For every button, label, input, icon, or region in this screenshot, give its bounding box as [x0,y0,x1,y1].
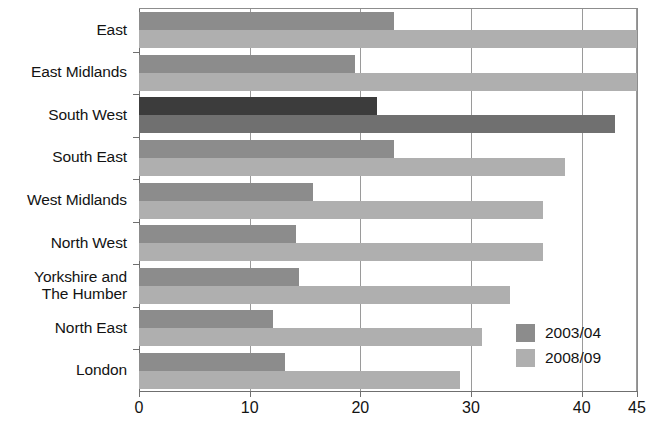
legend-label: 2008/09 [545,349,601,367]
x-axis: 01020304045 [139,391,637,429]
x-tick-label-40: 40 [573,399,591,417]
bar-2003-04 [139,12,394,30]
bar-2003-04 [139,183,313,201]
bar-2003-04 [139,353,285,371]
bar-2008-09 [139,73,637,91]
category-tick [133,179,139,180]
bar-2008-09 [139,115,615,133]
x-axis-line [139,391,637,392]
category-label-line: The Humber [0,285,127,302]
category-label-line: North East [0,319,127,336]
legend-swatch [516,349,535,367]
bar-row [139,140,637,176]
legend-entry: 2003/04 [516,320,601,345]
legend-swatch [516,324,535,342]
category-tick [133,94,139,95]
x-tick-20 [360,391,361,397]
bar-2008-09 [139,158,565,176]
category-label-line: South West [0,106,127,123]
category-label-london: London [0,361,127,378]
category-label-north-east: North East [0,319,127,336]
category-label-line: East [0,21,127,38]
category-label-south-east: South East [0,148,127,165]
category-tick [133,307,139,308]
x-tick-label-10: 10 [241,399,259,417]
x-tick-label-45: 45 [628,399,646,417]
category-label-yorkshire-and-the-humber: Yorkshire andThe Humber [0,268,127,302]
category-label-east-midlands: East Midlands [0,63,127,80]
bar-2003-04 [139,140,394,158]
category-label-line: East Midlands [0,63,127,80]
category-label-west-midlands: West Midlands [0,191,127,208]
bar-row [139,183,637,219]
x-tick-0 [139,391,140,397]
category-axis: EastEast MidlandsSouth WestSouth EastWes… [0,0,133,391]
bar-row [139,268,637,304]
bar-2003-04 [139,310,273,328]
category-label-line: North West [0,234,127,251]
category-tick [133,137,139,138]
x-tick-40 [582,391,583,397]
category-tick [133,264,139,265]
chart-legend: 2003/042008/09 [516,320,601,370]
x-tick-45 [637,391,638,397]
x-tick-label-0: 0 [135,399,144,417]
category-label-north-west: North West [0,234,127,251]
legend-label: 2003/04 [545,324,601,342]
bar-2008-09 [139,201,543,219]
bar-row [139,55,637,91]
bar-chart: EastEast MidlandsSouth WestSouth EastWes… [0,0,654,429]
x-tick-label-20: 20 [351,399,369,417]
bar-2003-04 [139,97,377,115]
category-label-line: South East [0,148,127,165]
bar-2003-04 [139,268,299,286]
x-tick-30 [471,391,472,397]
category-label-line: West Midlands [0,191,127,208]
category-label-line: London [0,361,127,378]
bar-2008-09 [139,30,637,48]
legend-entry: 2008/09 [516,345,601,370]
bar-2003-04 [139,55,355,73]
x-tick-10 [250,391,251,397]
bar-2003-04 [139,225,296,243]
category-tick [133,222,139,223]
x-tick-label-30: 30 [462,399,480,417]
category-label-line: Yorkshire and [0,268,127,285]
bar-row [139,12,637,48]
bar-2008-09 [139,286,510,304]
bar-2008-09 [139,243,543,261]
category-label-south-west: South West [0,106,127,123]
bar-row [139,97,637,133]
category-label-east: East [0,21,127,38]
bar-row [139,225,637,261]
category-tick [133,349,139,350]
category-tick [133,52,139,53]
bar-2008-09 [139,328,482,346]
bar-2008-09 [139,371,460,389]
